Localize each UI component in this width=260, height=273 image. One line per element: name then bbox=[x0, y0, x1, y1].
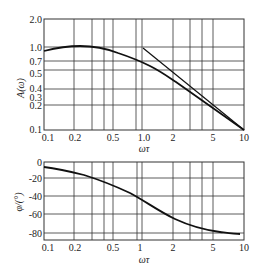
bode-plot-figure: 2.0 1.0 0.7 0.5 0.4 0.3 0.2 0.1 0.1 0.2 … bbox=[0, 0, 260, 273]
svg-text:1.0: 1.0 bbox=[30, 42, 43, 53]
amplitude-x-axis-label: ωτ bbox=[139, 143, 150, 154]
phase-plot: 0 -20 -40 -60 -80 0.1 0.2 0.5 1 2 5 10 ω… bbox=[13, 157, 249, 265]
amplitude-plot: 2.0 1.0 0.7 0.5 0.4 0.3 0.2 0.1 0.1 0.2 … bbox=[15, 14, 249, 154]
svg-text:0.2: 0.2 bbox=[69, 242, 82, 253]
svg-text:-60: -60 bbox=[29, 209, 42, 220]
svg-text:0.1: 0.1 bbox=[42, 242, 55, 253]
svg-text:-80: -80 bbox=[29, 228, 42, 239]
svg-text:0.1: 0.1 bbox=[42, 132, 55, 143]
svg-text:-40: -40 bbox=[29, 191, 42, 202]
svg-text:1: 1 bbox=[138, 242, 143, 253]
svg-text:0.5: 0.5 bbox=[30, 68, 43, 79]
svg-text:0.2: 0.2 bbox=[69, 132, 82, 143]
svg-text:2: 2 bbox=[171, 242, 176, 253]
phase-x-axis-label: ωτ bbox=[139, 254, 150, 265]
svg-text:0.1: 0.1 bbox=[30, 124, 43, 135]
svg-text:0.2: 0.2 bbox=[30, 100, 43, 111]
amplitude-x-ticks: 0.1 0.2 0.5 1.0 2 5 10 bbox=[42, 132, 249, 143]
amplitude-grid bbox=[44, 19, 244, 130]
svg-text:0.5: 0.5 bbox=[107, 132, 120, 143]
svg-text:0: 0 bbox=[37, 157, 42, 168]
svg-text:0.7: 0.7 bbox=[30, 56, 43, 67]
svg-text:5: 5 bbox=[211, 242, 216, 253]
phase-y-ticks: 0 -20 -40 -60 -80 bbox=[29, 157, 42, 239]
amplitude-y-axis-label: A(ω) bbox=[15, 77, 27, 98]
phase-y-axis-label: φ/(°) bbox=[13, 192, 25, 212]
phase-x-ticks: 0.1 0.2 0.5 1 2 5 10 bbox=[42, 242, 249, 253]
amplitude-y-ticks: 2.0 1.0 0.7 0.5 0.4 0.3 0.2 0.1 bbox=[30, 14, 43, 135]
svg-text:0.5: 0.5 bbox=[107, 242, 120, 253]
svg-text:1.0: 1.0 bbox=[138, 132, 151, 143]
svg-text:10: 10 bbox=[239, 132, 249, 143]
svg-text:10: 10 bbox=[239, 242, 249, 253]
svg-text:5: 5 bbox=[211, 132, 216, 143]
svg-text:2.0: 2.0 bbox=[30, 14, 43, 25]
svg-text:-20: -20 bbox=[29, 173, 42, 184]
svg-text:2: 2 bbox=[171, 132, 176, 143]
